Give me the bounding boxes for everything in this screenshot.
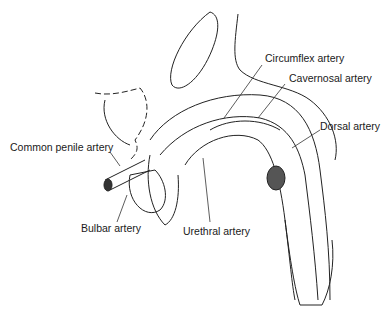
urethra-arc (185, 135, 295, 300)
leader-urethral (203, 158, 210, 222)
pelvis-outline (235, 14, 336, 160)
leader-common-penile (110, 152, 120, 166)
vessel-opening (104, 179, 112, 191)
pubic-bone-outline (171, 12, 218, 88)
anatomy-illustration (0, 0, 387, 319)
label-dorsal-artery: Dorsal artery (320, 121, 380, 132)
glans-outline (285, 220, 333, 305)
label-urethral-artery: Urethral artery (183, 226, 250, 237)
crus-outline (148, 155, 178, 225)
ramus-outline (104, 100, 130, 145)
label-bulbar-artery: Bulbar artery (81, 223, 141, 234)
corpus-inner (160, 117, 318, 300)
cross-section (267, 166, 285, 190)
bulb-outline (129, 170, 165, 213)
leader-cavernosal (258, 84, 285, 118)
corpus-outer (150, 95, 330, 300)
label-circumflex-artery: Circumflex artery (265, 53, 344, 64)
leader-bulbar (117, 195, 127, 222)
leader-dorsal (292, 130, 320, 148)
label-common-penile-artery: Common penile artery (10, 142, 113, 153)
corpus-fold (210, 121, 280, 130)
label-cavernosal-artery: Cavernosal artery (289, 73, 372, 84)
